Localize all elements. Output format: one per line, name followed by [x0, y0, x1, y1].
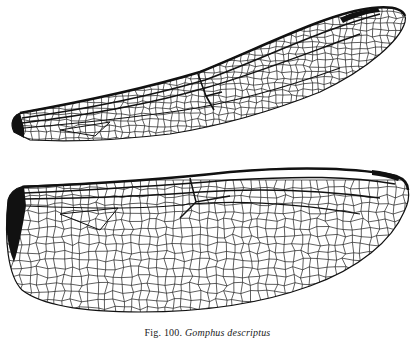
- figure-caption: Fig. 100. Gomphus descriptus: [0, 327, 415, 338]
- hindwing-base: [6, 186, 26, 262]
- figure-number: Fig. 100.: [145, 327, 183, 338]
- forewing-base: [12, 113, 24, 138]
- forewing: [10, 0, 415, 150]
- hindwing: [4, 169, 412, 316]
- forewing-costa: [20, 7, 405, 113]
- hindwing-pterostigma: [372, 170, 400, 181]
- species-name: Gomphus descriptus: [185, 327, 271, 338]
